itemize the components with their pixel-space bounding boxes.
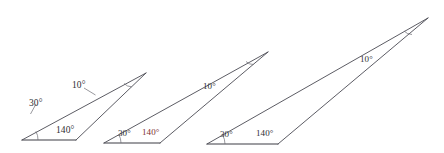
triangle-3-angle-left-label: 30° [220,130,233,139]
triangle-3-long-side [207,18,428,144]
triangle-1-short-side [76,73,146,140]
triangle-3-angle-base-right-label: 140° [256,129,274,138]
triangle-1-angle-apex-label: 10° [72,81,86,91]
triangle-3 [207,18,428,144]
triangle-3-short-side [278,18,428,144]
triangle-3-angle-apex-label: 10° [360,55,373,64]
triangle-1-angle-base-right-label: 140° [56,126,74,136]
triangle-2-angle-apex-label: 10° [203,82,216,91]
triangle-1-angle-arc-left [36,131,38,140]
triangle-2-angle-left-label: 30° [118,129,131,138]
triangle-1-angle-left-label: 30° [29,99,43,109]
triangle-2-short-side [160,52,268,143]
triangle-2-angle-base-right-label: 140° [142,128,160,137]
